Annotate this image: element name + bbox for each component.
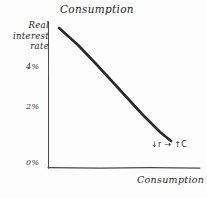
y-axis-label-line-2: interest [13, 31, 49, 42]
curve-annotation: ↓r → ↑C [151, 140, 187, 149]
hand-drawn-chart: Consumption Real interest rate 4% 2% 0% … [0, 0, 207, 198]
y-axis-label-line-1: Real [13, 20, 49, 31]
y-axis-label-line-3: rate [13, 41, 49, 52]
consumption-curve [59, 28, 172, 142]
y-tick-label-4-percent: 4% [26, 62, 39, 71]
y-axis-label: Real interest rate [13, 20, 49, 52]
x-axis-label: Consumption [137, 174, 204, 185]
x-axis [48, 168, 200, 169]
y-tick-label-2-percent: 2% [26, 102, 39, 111]
y-tick-label-0-percent: 0% [26, 158, 39, 167]
chart-title: Consumption [60, 3, 134, 15]
